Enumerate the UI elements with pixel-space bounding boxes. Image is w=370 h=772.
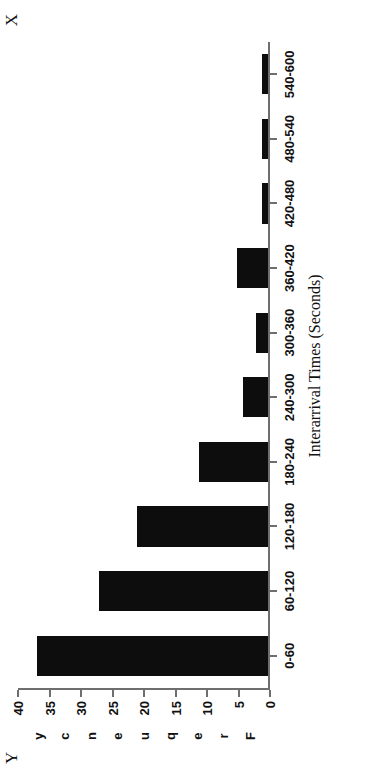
bar [262,119,268,159]
x-tick-label: 420-480 [282,180,297,228]
y-tick-label: 35 [42,701,57,715]
bar [243,377,268,417]
y-tick [112,690,114,697]
y-axis-title-letter-7: c [58,732,71,739]
x-tick-label: 180-240 [282,438,297,486]
y-tick-label: 5 [231,701,246,708]
y-axis-name-label: Y [2,752,22,764]
y-tick-label: 25 [105,701,120,715]
x-axis-name-label: X [2,14,22,26]
bar [137,506,268,546]
y-tick [238,690,240,697]
y-tick-label: 0 [263,701,278,708]
y-tick-label: 20 [137,701,152,715]
x-tick-label: 540-600 [282,50,297,98]
y-tick-label: 30 [74,701,89,715]
y-axis-title-letters: Frequency [18,724,270,748]
x-tick-label: 120-180 [282,503,297,551]
y-tick-label: 40 [11,701,26,715]
y-axis-title-letter-0: F [244,732,257,740]
y-axis-title-letter-5: e [111,732,124,739]
y-tick-label: 10 [200,701,215,715]
plot-area: 0510152025303540 0-6060-120120-180180-24… [18,42,270,690]
y-axis-title-letter-8: y [32,732,45,739]
y-axis-title-letter-6: n [85,732,98,740]
bar [199,442,268,482]
y-tick-label: 15 [168,701,183,715]
y-tick [80,690,82,697]
x-tick [270,461,277,463]
x-tick [270,526,277,528]
x-tick-label: 240-300 [282,373,297,421]
bar-series [18,42,268,688]
y-tick [143,690,145,697]
x-tick-label: 480-540 [282,115,297,163]
y-axis-title-letter-4: u [138,732,151,740]
x-tick [270,267,277,269]
y-tick [17,690,19,697]
bar [37,636,268,676]
x-tick [270,590,277,592]
y-tick [49,690,51,697]
bar [262,183,268,223]
bar [99,571,268,611]
bar [237,248,268,288]
rotated-figure-wrapper: Y X Frequency 0510152025303540 0-6060-12… [0,0,370,772]
x-tick [270,73,277,75]
x-tick-label: 300-360 [282,309,297,357]
x-tick-label: 0-60 [282,643,297,669]
x-tick [270,203,277,205]
y-axis-title-letter-1: r [217,733,230,738]
y-tick [269,690,271,697]
y-axis-title-letter-2: e [191,732,204,739]
y-tick [206,690,208,697]
bar [256,313,269,353]
x-axis-title: Interarrival Times (Seconds) [306,42,324,690]
x-tick-label: 360-420 [282,244,297,292]
y-tick [175,690,177,697]
x-tick [270,396,277,398]
y-axis-title-letter-3: q [164,732,177,740]
x-tick [270,332,277,334]
x-tick-label: 60-120 [282,571,297,611]
bar [262,54,268,94]
x-tick [270,655,277,657]
histogram-figure: Y X Frequency 0510152025303540 0-6060-12… [0,0,370,772]
x-tick [270,138,277,140]
